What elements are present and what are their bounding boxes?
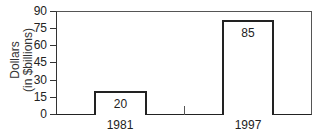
y-tick-label-15: 15 <box>34 91 47 103</box>
bar-value-label-1997: 85 <box>224 26 272 40</box>
y-tick-label-90: 90 <box>34 5 47 17</box>
y-tick-75 <box>50 28 56 29</box>
y-tick-15 <box>50 97 56 98</box>
x-axis-mid-tick <box>184 106 185 115</box>
bar-chart: Dollars (in $billions) 90 75 60 45 30 15… <box>0 0 326 136</box>
bar-1981: 20 <box>94 91 147 115</box>
x-tick-label-1997: 1997 <box>235 118 262 132</box>
y-tick-30 <box>50 80 56 81</box>
y-tick-label-45: 45 <box>34 56 47 68</box>
y-tick-label-75: 75 <box>34 22 47 34</box>
bar-value-label-1981: 20 <box>96 97 145 111</box>
x-tick-label-1981: 1981 <box>107 118 134 132</box>
y-tick-90 <box>50 11 56 12</box>
y-tick-60 <box>50 45 56 46</box>
bar-1997: 85 <box>222 20 274 115</box>
y-tick-label-30: 30 <box>34 74 47 86</box>
y-tick-45 <box>50 62 56 63</box>
y-tick-0 <box>50 114 56 115</box>
y-axis-label: Dollars (in $billions) <box>9 28 35 92</box>
y-tick-label-0: 0 <box>40 108 47 120</box>
y-tick-label-60: 60 <box>34 39 47 51</box>
